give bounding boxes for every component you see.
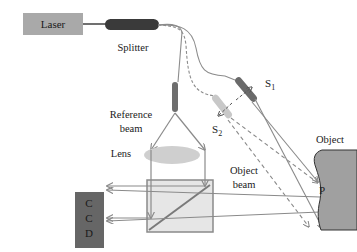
reference-probe — [172, 82, 178, 112]
lens — [144, 146, 200, 164]
s2-label: S2 — [212, 123, 222, 138]
reference-beam — [151, 113, 205, 150]
splitter-label: Splitter — [118, 42, 149, 53]
reference-beam-label-2: beam — [120, 123, 143, 134]
object-beam-label-1: Object — [230, 165, 258, 176]
lens-label: Lens — [111, 148, 131, 159]
fiber-to-s2 — [158, 25, 215, 96]
ccd-label-c1: C — [85, 197, 92, 209]
laser-label: Laser — [41, 18, 66, 30]
object-beam-label-2: beam — [233, 179, 256, 190]
fiber-paths — [158, 24, 235, 96]
ccd-label-d: D — [85, 227, 93, 239]
fiber-to-reference — [158, 24, 182, 82]
laser-source: Laser — [23, 13, 83, 35]
point-p-label: P — [319, 184, 325, 196]
splitter — [105, 19, 159, 30]
speckle-interferometer-diagram: Laser Splitter Reference beam Lens C C D — [0, 0, 357, 252]
beam-splitter-cube — [147, 180, 213, 232]
object-label: Object — [316, 134, 344, 145]
object: Object P — [314, 134, 357, 230]
fiber-to-s1 — [158, 25, 235, 80]
s1-label: S1 — [265, 77, 275, 92]
object-illumination-beams — [228, 99, 323, 229]
ccd-label-c2: C — [85, 212, 92, 224]
ccd-camera: C C D — [75, 192, 104, 248]
s2-probe — [211, 93, 234, 119]
reference-beam-label-1: Reference — [110, 109, 153, 120]
